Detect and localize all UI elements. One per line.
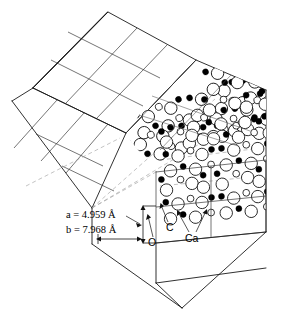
top-face-cell-grid [33, 12, 196, 133]
atom-label-c: C [166, 221, 174, 233]
lattice-b-label: b = 7.968 Å [66, 224, 117, 235]
atom-label-o: O [148, 236, 156, 248]
lattice-a-label: a = 4.959 Å [66, 209, 116, 220]
crystal-diagram-canvas: a = 4.959 Å b = 7.968 Å C O Ca [0, 0, 284, 317]
atom-label-ca: Ca [185, 232, 199, 244]
atom-lattice [123, 33, 284, 227]
crystal-structure-figure: a = 4.959 Å b = 7.968 Å C O Ca [0, 0, 284, 317]
lattice-dimension-annotations: a = 4.959 Å b = 7.968 Å [66, 205, 156, 244]
